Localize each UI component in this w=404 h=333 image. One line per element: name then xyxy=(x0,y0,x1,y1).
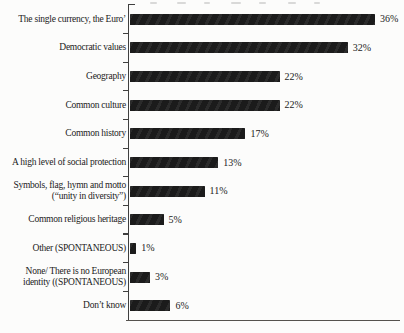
category-label: Common culture xyxy=(0,100,126,111)
bar-row: Common religious heritage5% xyxy=(0,205,404,234)
category-label: Don’t know xyxy=(0,300,126,311)
cropped-title-remnant xyxy=(177,2,186,4)
value-label: 22% xyxy=(285,100,303,110)
category-label: Other (SPONTANEOUS) xyxy=(0,243,126,254)
plot-area: 32% xyxy=(126,34,404,63)
plot-area: 6% xyxy=(126,291,404,320)
bar xyxy=(130,14,376,25)
bar xyxy=(130,300,171,311)
bar xyxy=(130,186,205,197)
plot-area: 1% xyxy=(126,234,404,263)
value-label: 17% xyxy=(250,129,268,139)
bar xyxy=(130,243,137,254)
bar-rows: The single currency, the Euro’36%Democra… xyxy=(0,5,404,320)
bar-row: Don’t know6% xyxy=(0,291,404,320)
cropped-title-remnant xyxy=(288,2,296,4)
plot-area: 17% xyxy=(126,120,404,149)
value-label: 5% xyxy=(169,215,182,225)
bar-row: A high level of social protection13% xyxy=(0,148,404,177)
category-label: The single currency, the Euro’ xyxy=(0,14,126,25)
category-label: Democratic values xyxy=(0,42,126,53)
category-label: A high level of social protection xyxy=(0,157,126,168)
bar xyxy=(130,42,348,53)
value-label: 22% xyxy=(285,72,303,82)
bar-row: The single currency, the Euro’36% xyxy=(0,5,404,34)
axis-top-tick xyxy=(128,4,135,5)
category-label: Geography xyxy=(0,71,126,82)
value-label: 36% xyxy=(380,14,398,24)
bar xyxy=(130,157,219,168)
value-label: 13% xyxy=(223,158,241,168)
category-label: Symbols, flag, hymn and motto (“unity in… xyxy=(0,180,126,202)
plot-area: 5% xyxy=(126,205,404,234)
bar-row: Symbols, flag, hymn and motto (“unity in… xyxy=(0,177,404,206)
plot-area: 11% xyxy=(126,177,404,206)
bar xyxy=(130,128,246,139)
cropped-title-remnant xyxy=(150,2,157,4)
bar-row: Other (SPONTANEOUS)1% xyxy=(0,234,404,263)
bar xyxy=(130,71,280,82)
plot-area: 36% xyxy=(126,5,404,34)
bar-row: Common culture22% xyxy=(0,91,404,120)
category-label: Common history xyxy=(0,128,126,139)
cropped-title-remnant xyxy=(314,2,320,4)
plot-area: 3% xyxy=(126,263,404,292)
plot-area: 22% xyxy=(126,62,404,91)
bar-row: Common history17% xyxy=(0,120,404,149)
bar xyxy=(130,272,151,283)
value-label: 1% xyxy=(141,243,154,253)
value-label: 11% xyxy=(210,186,228,196)
category-label: None/ There is no European identity ((SP… xyxy=(0,266,126,288)
plot-area: 22% xyxy=(126,91,404,120)
value-label: 3% xyxy=(155,272,168,282)
bar-row: None/ There is no European identity ((SP… xyxy=(0,263,404,292)
bar-chart: The single currency, the Euro’36%Democra… xyxy=(0,0,404,333)
y-axis-line xyxy=(128,4,129,320)
cropped-title-remnant xyxy=(231,2,241,4)
cropped-title-remnant xyxy=(259,2,266,4)
value-label: 6% xyxy=(175,301,188,311)
bar xyxy=(130,100,280,111)
bar xyxy=(130,214,164,225)
value-label: 32% xyxy=(353,43,371,53)
category-label: Common religious heritage xyxy=(0,214,126,225)
x-axis-line xyxy=(126,320,400,321)
plot-area: 13% xyxy=(126,148,404,177)
bar-row: Democratic values32% xyxy=(0,34,404,63)
cropped-title-remnant xyxy=(204,2,210,4)
bar-row: Geography22% xyxy=(0,62,404,91)
